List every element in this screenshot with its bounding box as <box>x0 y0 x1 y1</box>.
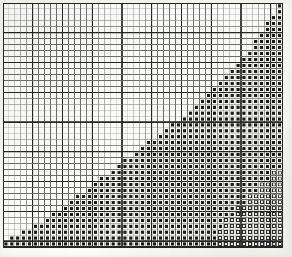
chart-grid-canvas[interactable] <box>3 3 283 248</box>
chart-page: Stepped Diagonal Filled Chart Scanned gr… <box>0 0 292 257</box>
cross-stitch-chart[interactable] <box>3 3 283 248</box>
